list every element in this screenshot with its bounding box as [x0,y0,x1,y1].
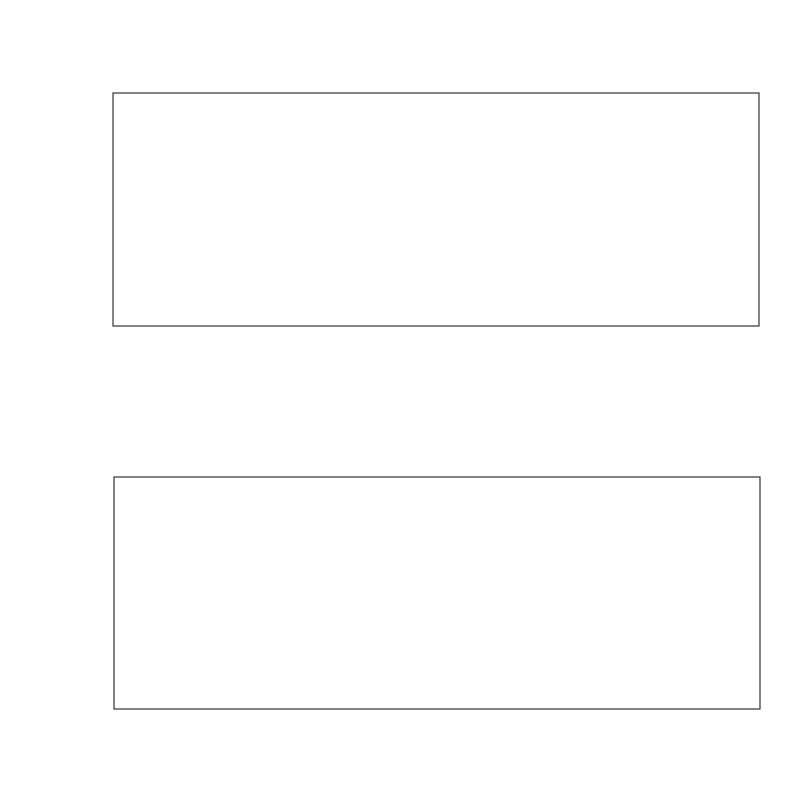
figure-canvas [0,0,805,790]
top-plot-frame [113,93,759,326]
bottom-chart [114,477,760,709]
bottom-plot-frame [114,477,760,709]
top-chart [113,93,759,326]
